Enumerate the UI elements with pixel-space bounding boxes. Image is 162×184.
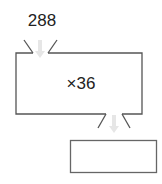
input-arrow-icon — [35, 40, 45, 58]
output-arrow-icon — [109, 115, 119, 133]
output-value — [72, 142, 155, 171]
operation-label: ×36 — [56, 74, 106, 94]
